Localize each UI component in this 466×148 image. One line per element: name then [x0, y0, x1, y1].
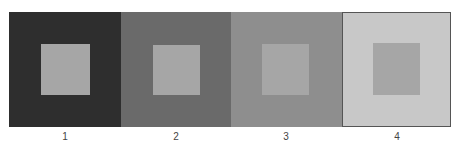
- center-square-3: [262, 44, 309, 95]
- panel-label-1: 1: [45, 131, 85, 142]
- center-square-1: [41, 44, 90, 95]
- panel-4: [342, 12, 451, 127]
- panel-1: [9, 12, 121, 127]
- panel-label-2: 2: [156, 131, 196, 142]
- panel-label-3: 3: [266, 131, 306, 142]
- panel-3: [231, 12, 342, 127]
- panel-2: [121, 12, 231, 127]
- center-square-2: [153, 45, 200, 95]
- panel-label-4: 4: [377, 131, 417, 142]
- center-square-4: [373, 43, 420, 95]
